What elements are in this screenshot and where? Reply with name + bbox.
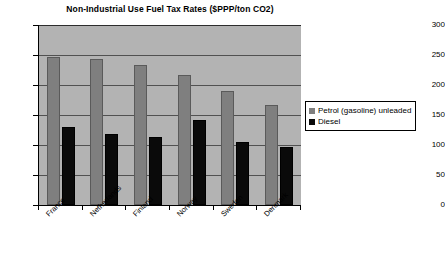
bar-finland-diesel xyxy=(149,137,162,205)
x-axis-tick-mark xyxy=(300,206,301,210)
legend-swatch-icon xyxy=(309,108,315,114)
legend-item: Petrol (gasoline) unleaded xyxy=(309,105,411,116)
y-axis-tick-label: 150 xyxy=(417,111,445,119)
bar-group xyxy=(83,25,127,205)
chart-title: Non-Industrial Use Fuel Tax Rates ($PPP/… xyxy=(0,4,340,14)
bar-group xyxy=(170,25,214,205)
bar-chart: Non-Industrial Use Fuel Tax Rates ($PPP/… xyxy=(0,0,445,263)
legend-swatch-icon xyxy=(309,119,315,125)
bar-group xyxy=(39,25,83,205)
legend-label: Diesel xyxy=(318,117,340,127)
bar-group xyxy=(214,25,258,205)
bar-france-petrol xyxy=(47,57,60,205)
y-axis-tick-label: 100 xyxy=(417,141,445,149)
y-axis-tick-label: 300 xyxy=(417,21,445,29)
plot-area xyxy=(38,25,301,206)
bar-netherlands-petrol xyxy=(90,59,103,205)
bar-norway-petrol xyxy=(178,75,191,205)
bar-group xyxy=(126,25,170,205)
y-axis-tick-label: 200 xyxy=(417,81,445,89)
x-axis-tick-mark xyxy=(256,206,257,210)
bar-denmark-petrol xyxy=(265,105,278,205)
legend-item: Diesel xyxy=(309,116,411,127)
x-axis-tick-mark xyxy=(82,206,83,210)
y-axis-tick-label: 250 xyxy=(417,51,445,59)
y-axis-tick-label: 0 xyxy=(417,201,445,209)
x-axis-tick-mark xyxy=(169,206,170,210)
bar-sweden-petrol xyxy=(221,91,234,205)
bar-norway-diesel xyxy=(193,120,206,205)
chart-legend: Petrol (gasoline) unleadedDiesel xyxy=(305,101,416,131)
bar-finland-petrol xyxy=(134,65,147,205)
bar-france-diesel xyxy=(62,127,75,205)
y-axis-tick-label: 50 xyxy=(417,171,445,179)
x-axis-tick-mark xyxy=(38,206,39,210)
bar-group xyxy=(257,25,301,205)
legend-label: Petrol (gasoline) unleaded xyxy=(318,106,411,116)
x-axis-tick-mark xyxy=(125,206,126,210)
x-axis-tick-mark xyxy=(213,206,214,210)
